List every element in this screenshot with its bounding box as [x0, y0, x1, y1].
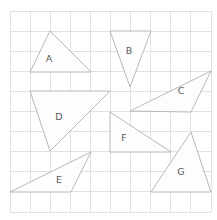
triangle-b	[110, 31, 151, 87]
triangle-label-b: B	[126, 45, 133, 56]
worksheet-canvas: ABCDEFG	[0, 0, 217, 220]
triangles-grid-figure: ABCDEFG	[0, 0, 217, 220]
triangle-label-a: A	[46, 53, 53, 64]
triangle-label-d: D	[55, 111, 62, 122]
triangle-label-f: F	[121, 132, 126, 143]
triangle-label-c: C	[178, 85, 185, 96]
triangle-g	[151, 132, 211, 192]
triangle-label-e: E	[56, 174, 62, 185]
triangle-label-g: G	[177, 166, 184, 177]
